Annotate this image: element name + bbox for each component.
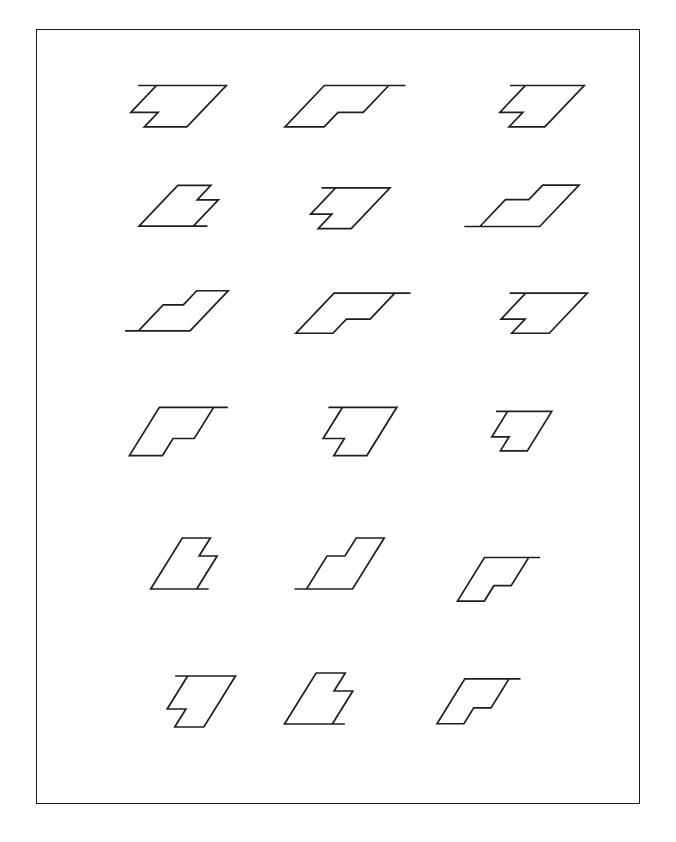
- letter-glyph: [151, 538, 217, 589]
- glyph-layer: [125, 85, 587, 727]
- figure-page: [0, 0, 676, 842]
- letter-glyph: [437, 679, 521, 724]
- letter-glyph: [295, 538, 385, 589]
- letter-glyph: [464, 185, 579, 226]
- letter-glyph: [323, 407, 397, 455]
- letter-glyph: [129, 407, 227, 455]
- letter-glyph: [139, 185, 218, 226]
- letter-glyph: [492, 411, 552, 450]
- letter-glyph: [285, 85, 406, 126]
- letter-glyph: [131, 85, 226, 126]
- letter-glyph: [501, 293, 587, 333]
- letter-glyph: [125, 291, 228, 331]
- letter-glyph: [457, 558, 540, 602]
- letter-glyph: [167, 676, 235, 727]
- letter-glyph: [500, 85, 584, 126]
- letter-glyph: [311, 188, 390, 229]
- stimulus-array: [0, 0, 676, 842]
- letter-glyph: [285, 673, 353, 724]
- letter-glyph: [296, 293, 411, 333]
